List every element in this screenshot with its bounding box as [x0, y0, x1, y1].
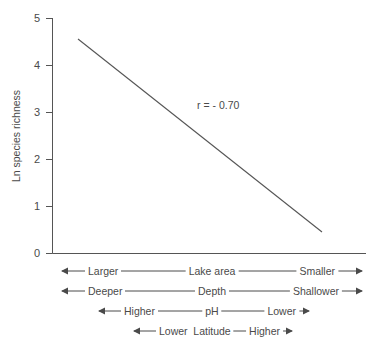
y-tick-label-2: 2: [26, 154, 40, 165]
gradient-label-latitude-left: Lower: [156, 325, 191, 337]
gradient-label-lake-area-right: Smaller: [296, 265, 338, 277]
y-tick-label-5: 5: [26, 13, 40, 24]
y-tick-label-4: 4: [26, 60, 40, 71]
y-axis-title: Ln species richness: [10, 71, 22, 201]
gradient-label-ph-right: Lower: [264, 305, 299, 317]
gradient-label-ph-left: Higher: [121, 305, 158, 317]
y-tick-label-3: 3: [26, 107, 40, 118]
y-axis-ticks: [46, 19, 53, 254]
chart-figure: 5 4 3 2 1 0 Ln species richness r = - 0.…: [0, 0, 379, 346]
gradient-label-latitude-right: Higher: [246, 325, 283, 337]
gradient-label-lake-area-center: Lake area: [186, 265, 239, 277]
correlation-annotation: r = - 0.70: [197, 99, 239, 111]
gradient-label-depth-left: Deeper: [85, 285, 125, 297]
gradient-label-latitude-center: Latitude: [190, 325, 233, 337]
y-tick-label-0: 0: [26, 248, 40, 259]
gradient-label-depth-center: Depth: [195, 285, 229, 297]
y-tick-label-1: 1: [26, 201, 40, 212]
gradient-label-depth-right: Shallower: [290, 285, 342, 297]
gradient-label-ph-center: pH: [202, 305, 221, 317]
trend-line: [78, 39, 322, 232]
gradient-label-lake-area-left: Larger: [85, 265, 121, 277]
